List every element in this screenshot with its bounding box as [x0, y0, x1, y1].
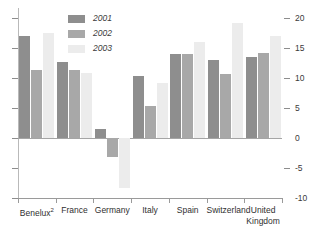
- bar[interactable]: [145, 106, 156, 138]
- bar[interactable]: [43, 33, 54, 138]
- y-tick-left: [12, 48, 18, 49]
- category-label: Switzerland: [207, 205, 245, 216]
- bar[interactable]: [119, 138, 130, 188]
- y-tick-label: 15: [295, 44, 304, 53]
- category-label: Benelux2: [18, 205, 56, 218]
- y-tick-left: [12, 78, 18, 79]
- y-tick-label: 10: [295, 74, 304, 83]
- category-label: Spain: [169, 205, 207, 216]
- legend-label-2001: 2001: [93, 14, 112, 23]
- category-tick: [244, 198, 245, 203]
- bar[interactable]: [246, 57, 257, 138]
- legend-swatch-2003: [68, 45, 85, 53]
- category-tick: [56, 198, 57, 203]
- legend-label-2003: 2003: [93, 44, 112, 53]
- legend-swatch-2001: [68, 15, 85, 23]
- category-tick: [131, 198, 132, 203]
- bar[interactable]: [258, 53, 269, 138]
- y-tick-left: [12, 138, 18, 139]
- bar[interactable]: [157, 83, 168, 138]
- bar[interactable]: [95, 129, 106, 138]
- bar-group: [133, 0, 168, 190]
- category-tick: [18, 198, 19, 203]
- y-tick-left: [12, 18, 18, 19]
- y-tick-label: 20: [295, 14, 304, 23]
- category-tick: [282, 198, 283, 203]
- y-tick-label: 5: [295, 104, 300, 113]
- y-tick-right: [284, 168, 290, 169]
- bar[interactable]: [220, 74, 231, 138]
- category-tick: [93, 198, 94, 203]
- bar[interactable]: [182, 54, 193, 138]
- footnote-marker: 2: [51, 207, 54, 213]
- bar[interactable]: [31, 70, 42, 138]
- y-tick-right: [284, 108, 290, 109]
- y-tick-left: [12, 108, 18, 109]
- bar-group: [170, 0, 205, 190]
- category-label: Germany: [93, 205, 131, 216]
- bar[interactable]: [69, 70, 80, 138]
- category-label: UnitedKingdom: [244, 205, 282, 226]
- legend-item-2001[interactable]: 2001: [68, 13, 112, 24]
- bar[interactable]: [57, 62, 68, 138]
- legend-label-2002: 2002: [93, 29, 112, 38]
- bar-group: [208, 0, 243, 190]
- bar-group: [19, 0, 54, 190]
- bar[interactable]: [133, 76, 144, 138]
- bottom-axis-line: [18, 198, 282, 199]
- y-tick-label: -10: [295, 194, 307, 203]
- bar[interactable]: [270, 36, 281, 138]
- y-tick-label: -5: [295, 164, 303, 173]
- bar[interactable]: [208, 60, 219, 138]
- bar[interactable]: [19, 36, 30, 138]
- legend: 2001 2002 2003: [68, 13, 112, 58]
- category-tick: [207, 198, 208, 203]
- category-label: France: [56, 205, 94, 216]
- y-tick-right: [284, 18, 290, 19]
- y-tick-right: [284, 78, 290, 79]
- bar[interactable]: [107, 138, 118, 157]
- legend-item-2003[interactable]: 2003: [68, 43, 112, 54]
- bar[interactable]: [81, 73, 92, 138]
- y-tick-left: [12, 168, 18, 169]
- bar-group: [246, 0, 281, 190]
- legend-item-2002[interactable]: 2002: [68, 28, 112, 39]
- y-tick-right: [284, 48, 290, 49]
- category-tick: [169, 198, 170, 203]
- legend-swatch-2002: [68, 30, 85, 38]
- bar-chart: 20151050-5-10 Benelux2FranceGermanyItaly…: [0, 0, 324, 234]
- y-tick-label: 0: [295, 134, 300, 143]
- bar[interactable]: [232, 23, 243, 138]
- category-label: Italy: [131, 205, 169, 216]
- bar[interactable]: [170, 54, 181, 138]
- bar[interactable]: [194, 42, 205, 138]
